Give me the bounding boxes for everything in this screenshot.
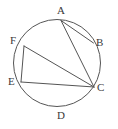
vertex-label-f: F (10, 35, 16, 46)
vertex-label-e: E (8, 76, 15, 87)
chord-ec (21, 82, 94, 87)
chord-ab (61, 21, 94, 44)
circle-outline (14, 20, 101, 107)
geometry-figure: ABCDEF (0, 0, 118, 129)
chord-group (21, 21, 94, 88)
vertex-label-c: C (97, 82, 104, 93)
chord-fe (21, 46, 24, 82)
vertex-label-d: D (57, 110, 65, 121)
vertex-label-a: A (57, 5, 65, 16)
vertex-label-b: B (96, 37, 103, 48)
